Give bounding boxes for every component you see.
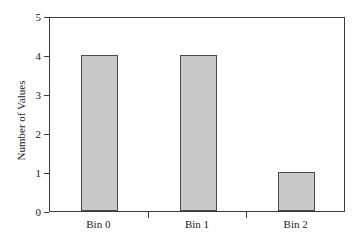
bar-chart-figure: Number of Values 012345 Bin 0Bin 1Bin 2: [0, 0, 364, 241]
bar: [180, 55, 217, 211]
y-axis-tick-label: 0: [36, 204, 42, 220]
y-axis-tick-label: 2: [36, 126, 42, 142]
x-axis-boundary-tick: [148, 212, 149, 218]
x-axis-tick-label: Bin 0: [58, 216, 138, 232]
bar: [278, 172, 315, 211]
y-axis-tick-label: 3: [36, 87, 42, 103]
bar: [81, 55, 118, 211]
x-axis-tick-label: Bin 1: [157, 216, 237, 232]
x-axis-tick-label: Bin 2: [256, 216, 336, 232]
y-axis-tick-label: 1: [36, 165, 42, 181]
y-axis-tick-label: 4: [36, 48, 42, 64]
plot-area: [49, 17, 345, 212]
y-axis-tick-label: 5: [36, 9, 42, 25]
x-axis-boundary-tick: [246, 212, 247, 218]
y-axis: 012345: [0, 0, 49, 241]
